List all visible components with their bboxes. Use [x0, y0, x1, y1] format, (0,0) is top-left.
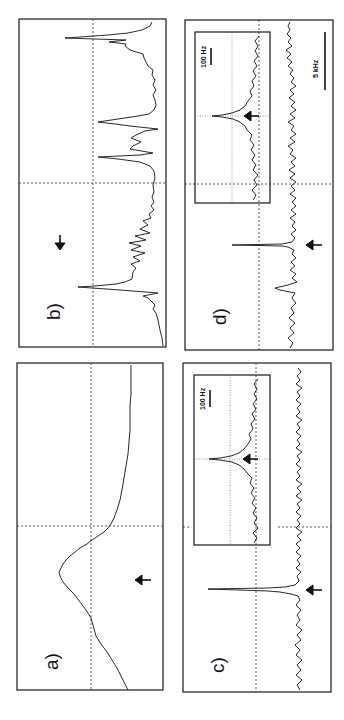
panel-a-arrow-icon [135, 575, 151, 585]
figure: b) 100 Hz 5 kHz d) [0, 0, 344, 720]
panel-c-trace [208, 368, 302, 690]
panel-d-arrow-icon [306, 240, 322, 250]
panel-b-trace [65, 22, 163, 346]
panel-c-frame [183, 363, 331, 692]
panel-d: 100 Hz 5 kHz d) [185, 20, 333, 350]
panel-c-label: c) [207, 657, 228, 673]
panel-c-arrow-icon [306, 585, 322, 595]
panel-d-scale-label: 5 kHz [312, 59, 319, 78]
panel-c-inset-trace [209, 379, 258, 543]
panel-a-label: a) [41, 653, 62, 670]
panel-a-frame [17, 363, 163, 690]
panel-d-trace [232, 22, 297, 348]
panel-c-inset-scale-label: 100 Hz [199, 387, 206, 410]
panel-a: a) [17, 363, 163, 690]
panel-a-trace [59, 365, 131, 690]
panel-d-inset-scale-label: 100 Hz [200, 45, 207, 68]
panel-b-label: b) [43, 303, 64, 320]
panel-c: 100 Hz c) [183, 363, 331, 692]
panel-b: b) [19, 19, 166, 347]
panel-b-arrow-icon [55, 235, 65, 250]
panel-d-inset-trace [212, 36, 259, 200]
panel-d-label: d) [209, 308, 230, 325]
panel-d-inset-arrow-icon [244, 111, 259, 121]
